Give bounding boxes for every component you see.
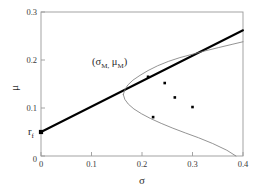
risk-free-point <box>39 130 43 134</box>
y-tick-label-3: 0.3 <box>26 7 37 17</box>
y-tick-labels: 0 0.1 0.2 0.3 <box>26 7 37 164</box>
x-tick-label-0: 0 <box>39 159 43 169</box>
data-point-marker <box>163 82 166 85</box>
tangency-close-paren: ) <box>124 56 128 68</box>
tangency-portfolio-point <box>147 76 150 79</box>
y-axis-title: μ <box>8 85 20 91</box>
x-tick-label-3: 0.3 <box>187 159 198 169</box>
x-tick-label-4: 0.4 <box>238 159 249 169</box>
axes-box <box>41 12 243 156</box>
plot-frame <box>41 12 243 156</box>
data-point-marker <box>147 76 150 79</box>
x-tick-label-2: 0.2 <box>137 159 148 169</box>
risk-free-annotation: rf <box>28 126 35 140</box>
efficient-frontier-chart: 0 0.1 0.2 0.3 0 0.1 0.2 0.3 0.4 σ μ (σM,… <box>0 0 262 191</box>
chart-canvas: 0 0.1 0.2 0.3 0 0.1 0.2 0.3 0.4 σ μ (σM,… <box>0 0 262 191</box>
risk-free-label-text: rf <box>28 126 35 140</box>
y-tick-label-2: 0.2 <box>26 55 37 65</box>
y-tick-label-1: 0.1 <box>26 103 37 113</box>
x-tick-label-1: 0.1 <box>86 159 97 169</box>
data-point-marker <box>191 106 194 109</box>
rf-subscript: f <box>32 132 35 140</box>
x-tick-labels: 0 0.1 0.2 0.3 0.4 <box>39 159 249 169</box>
data-point-marker <box>174 96 177 99</box>
x-axis-title: σ <box>139 174 145 186</box>
y-tick-label-0: 0 <box>33 154 37 164</box>
data-point-marker <box>152 116 155 119</box>
data-point-marker <box>39 130 43 134</box>
